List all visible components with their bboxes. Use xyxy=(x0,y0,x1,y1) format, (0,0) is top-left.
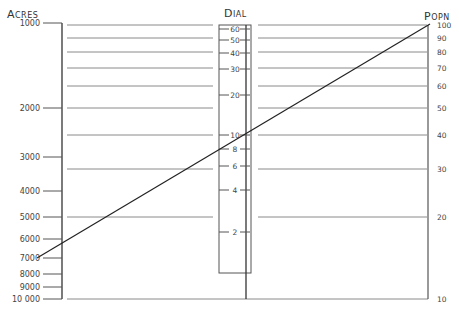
acres-tick-label: 8000 xyxy=(20,270,40,279)
acres-tick-label: 9000 xyxy=(20,283,40,292)
isopleth-line xyxy=(37,24,430,258)
dial-tick-label: 2 xyxy=(233,228,238,237)
popn-tick-label: 70 xyxy=(437,64,447,73)
popn-tick-label: 30 xyxy=(437,165,447,174)
acres-tick-label: 5000 xyxy=(20,213,40,222)
guide-rules xyxy=(67,25,428,299)
nomogram: ACRES DIAL POPN 100020003000400050006000… xyxy=(0,0,459,317)
dial-tick-label: 4 xyxy=(233,186,238,195)
popn-tick-label: 60 xyxy=(437,82,447,91)
popn-tick-label: 20 xyxy=(437,213,447,222)
popn-tick-label: 50 xyxy=(437,104,447,113)
acres-axis-ticks: 10002000300040005000600070008000900010 0… xyxy=(12,19,62,304)
dial-tick-label: 8 xyxy=(233,145,238,154)
popn-axis-ticks: 100908070605040302010 xyxy=(437,21,452,304)
acres-tick-label: 3000 xyxy=(20,153,40,162)
dial-axis-title: DIAL xyxy=(224,7,247,20)
popn-tick-label: 10 xyxy=(437,295,447,304)
popn-tick-label: 80 xyxy=(437,48,447,57)
popn-tick-label: 100 xyxy=(437,21,452,30)
dial-tick-label: 6 xyxy=(233,162,238,171)
dial-tick-label: 30 xyxy=(230,65,240,74)
acres-tick-label: 2000 xyxy=(20,104,40,113)
dial-tick-label: 40 xyxy=(230,49,240,58)
popn-tick-label: 40 xyxy=(437,131,447,140)
acres-tick-label: 10 000 xyxy=(12,295,40,304)
dial-tick-label: 20 xyxy=(230,91,240,100)
dial-tick-label: 50 xyxy=(230,36,240,45)
popn-tick-label: 90 xyxy=(437,34,447,43)
acres-tick-label: 7000 xyxy=(20,254,40,263)
acres-tick-label: 4000 xyxy=(20,187,40,196)
dial-tick-label: 60 xyxy=(230,25,240,34)
acres-tick-label: 6000 xyxy=(20,235,40,244)
acres-tick-label: 1000 xyxy=(20,19,40,28)
